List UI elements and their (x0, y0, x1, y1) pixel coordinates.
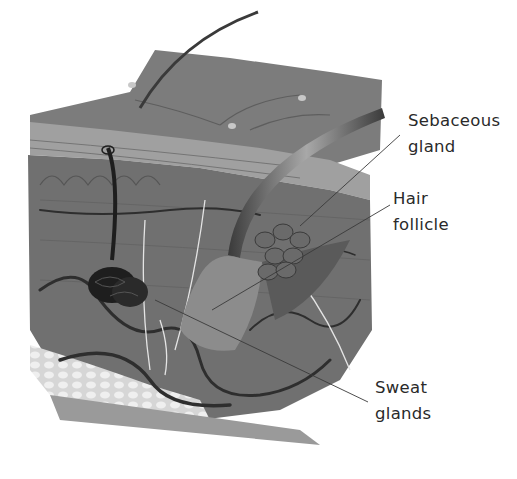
label-sebaceous-gland-line2: gland (408, 134, 500, 160)
label-sweat-glands-line2: glands (375, 401, 432, 427)
label-hair-follicle-line2: follicle (393, 212, 449, 238)
label-sweat-glands: Sweat glands (375, 375, 432, 427)
label-sweat-glands-line1: Sweat (375, 375, 432, 401)
label-hair-follicle-line1: Hair (393, 186, 449, 212)
label-sebaceous-gland-line1: Sebaceous (408, 108, 500, 134)
label-hair-follicle: Hair follicle (393, 186, 449, 238)
label-sebaceous-gland: Sebaceous gland (408, 108, 500, 160)
skin-cross-section-illustration (0, 0, 517, 479)
